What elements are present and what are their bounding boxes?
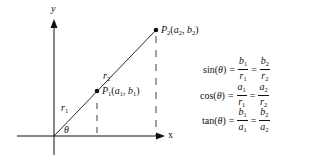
cosine-equation: cos(θ) = a1r1 = a2r2 [200, 82, 269, 108]
p1-label: P1(a1, b1) [102, 86, 140, 98]
tangent-fraction-1: b1a1 [237, 107, 247, 133]
r1-label: r1 [61, 103, 68, 115]
cosine-fraction-1: a1r1 [237, 82, 247, 108]
sine-fraction-2: b2r2 [260, 56, 270, 82]
p2-label: P2(a2, b2) [161, 25, 199, 37]
r2-label: r2 [103, 71, 110, 83]
tangent-equation: tan(θ) = b1a1 = b2a2 [202, 107, 270, 133]
y-axis-arrow-icon [51, 19, 58, 28]
sine-equation: sin(θ) = b1r1 = b2r2 [203, 56, 270, 82]
sine-fraction-1: b1r1 [238, 56, 248, 82]
x-axis-arrow-icon [156, 133, 165, 140]
angle-theta-label: θ [64, 125, 69, 135]
y-axis-label: y [51, 4, 55, 14]
radius-line [54, 30, 156, 136]
point-p1 [95, 89, 100, 94]
x-axis-label: x [168, 130, 173, 140]
tangent-fraction-2: b2a2 [259, 107, 269, 133]
point-p2 [154, 28, 159, 33]
cosine-fraction-2: a2r2 [258, 82, 268, 108]
